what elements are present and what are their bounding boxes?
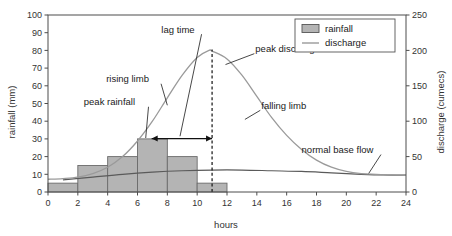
rainfall-bar <box>48 183 78 192</box>
y-tick-label: 40 <box>32 116 42 126</box>
legend-label-rainfall: rainfall <box>325 23 353 34</box>
legend-swatch-rainfall <box>302 25 319 33</box>
y-tick-label: 20 <box>32 152 42 162</box>
y-axis-label: rainfall (mm) <box>6 86 17 139</box>
annotation-normal-base-flow: normal base flow <box>302 144 374 155</box>
x-tick-label: 12 <box>222 198 232 208</box>
rainfall-bar <box>138 139 168 192</box>
annotation-peak-rainfall: peak rainfall <box>84 96 135 107</box>
x-tick-label: 4 <box>105 198 110 208</box>
y-tick-label: 10 <box>32 170 42 180</box>
y-tick-label: 50 <box>32 99 42 109</box>
y2-tick-label: 150 <box>412 81 427 91</box>
annotation-lag-time: lag time <box>161 24 194 35</box>
x-tick-label: 14 <box>252 198 262 208</box>
y2-tick-label: 0 <box>412 187 417 197</box>
y2-tick-label: 250 <box>412 10 427 20</box>
legend: rainfalldischarge <box>295 19 395 52</box>
annotation-rising-limb: rising limb <box>106 73 149 84</box>
annotation-falling-limb: falling limb <box>261 100 306 111</box>
x-tick-label: 8 <box>165 198 170 208</box>
y2-tick-label: 200 <box>412 46 427 56</box>
y-tick-label: 60 <box>32 81 42 91</box>
x-axis-label: hours <box>214 219 238 230</box>
x-tick-label: 10 <box>192 198 202 208</box>
y-tick-label: 80 <box>32 46 42 56</box>
y-tick-label: 0 <box>37 187 42 197</box>
y2-axis-label: discharge (cumecs) <box>435 71 446 154</box>
x-tick-label: 24 <box>401 198 411 208</box>
x-tick-label: 0 <box>45 198 50 208</box>
x-tick-label: 22 <box>371 198 381 208</box>
chart-canvas: 0102030405060708090100 050100150200250 0… <box>0 0 452 236</box>
x-tick-label: 20 <box>341 198 351 208</box>
y-tick-label: 100 <box>27 10 42 20</box>
x-tick-label: 16 <box>282 198 292 208</box>
y2-tick-label: 100 <box>412 116 427 126</box>
y-tick-label: 90 <box>32 28 42 38</box>
y2-tick-label: 50 <box>412 152 422 162</box>
hydrograph-chart: 0102030405060708090100 050100150200250 0… <box>0 0 452 236</box>
rainfall-bar <box>167 157 197 192</box>
y-tick-label: 30 <box>32 134 42 144</box>
y-tick-label: 70 <box>32 63 42 73</box>
legend-label-discharge: discharge <box>325 37 366 48</box>
x-tick-label: 6 <box>135 198 140 208</box>
x-tick-label: 2 <box>75 198 80 208</box>
x-tick-label: 18 <box>311 198 321 208</box>
